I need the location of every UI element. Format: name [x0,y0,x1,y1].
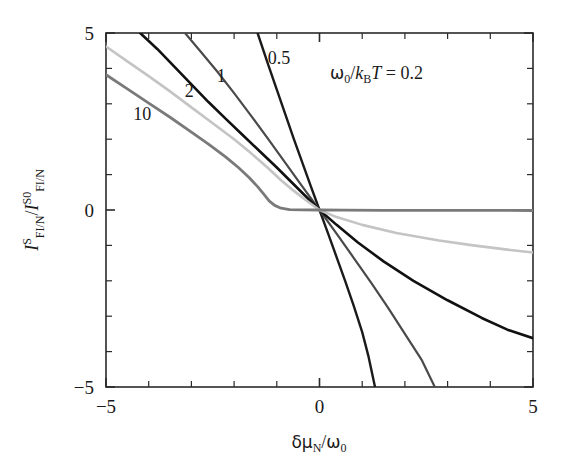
y-axis-title: ISFI/N/IS0FI/N [20,169,47,252]
curve-label-1: 1 [217,66,226,86]
line-chart: −505−505 10210.5 ω0/kBT = 0.2 δμN/ω0 ISF… [0,0,564,469]
curve-label-2: 2 [185,81,194,101]
x-axis-title: δμN/ω0 [291,432,346,455]
curve-10 [106,75,533,211]
y-tick-label: 5 [85,23,95,44]
annotation-omega-kbt: ω0/kBT = 0.2 [330,63,423,86]
x-tick-label: −5 [96,396,116,417]
tick-labels: −505−505 [74,23,538,417]
y-tick-label: 0 [85,200,95,221]
data-curves [106,33,533,387]
curve-label-0.5: 0.5 [268,48,291,68]
x-tick-label: 0 [315,396,325,417]
figure-container: −505−505 10210.5 ω0/kBT = 0.2 δμN/ω0 ISF… [0,0,564,469]
curve-2 [106,46,533,252]
x-tick-label: 5 [528,396,538,417]
y-tick-label: −5 [74,377,94,398]
curve-label-10: 10 [133,104,151,124]
